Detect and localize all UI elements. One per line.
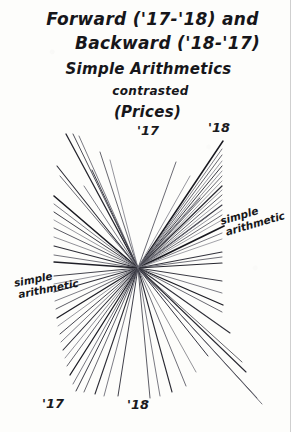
title-line-5: (Prices) (0, 103, 291, 121)
title-line-3: Simple Arithmetics (0, 60, 291, 78)
title-line-4: contrasted (0, 84, 291, 98)
figure-canvas: Forward ('17-'18) and Backward ('18-'17)… (0, 0, 291, 432)
title-line-2: Backward ('18-'17) (0, 33, 291, 53)
fan-lines-group (54, 134, 262, 404)
year-label-top-left: '17 (137, 123, 159, 138)
year-label-top-right: '18 (208, 120, 230, 135)
year-label-bottom-right: '18 (127, 397, 149, 412)
year-label-bottom-left: '17 (42, 396, 64, 411)
title-line-1: Forward ('17-'18) and (0, 9, 291, 29)
